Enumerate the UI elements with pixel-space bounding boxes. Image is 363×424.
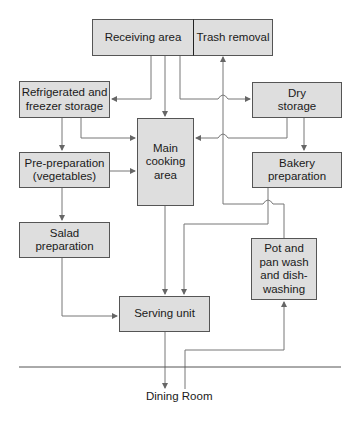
node-main-cooking-area: Main cooking area — [137, 118, 194, 206]
node-trash-removal: Trash removal — [193, 19, 273, 56]
node-pre-preparation: Pre-preparation (vegetables) — [19, 152, 110, 188]
node-receiving-area: Receiving area — [92, 19, 194, 56]
dining-room-label: Dining Room — [146, 390, 212, 402]
node-serving-unit: Serving unit — [119, 296, 210, 332]
node-dry-storage: Dry storage — [252, 82, 342, 118]
node-salad-preparation: Salad preparation — [19, 222, 110, 258]
node-refrigerated-storage: Refrigerated and freezer storage — [19, 81, 110, 118]
node-bakery-preparation: Bakery preparation — [252, 152, 342, 188]
node-pot-pan-wash: Pot and pan wash and dish- washing — [251, 238, 317, 300]
connector-lines — [0, 0, 363, 424]
